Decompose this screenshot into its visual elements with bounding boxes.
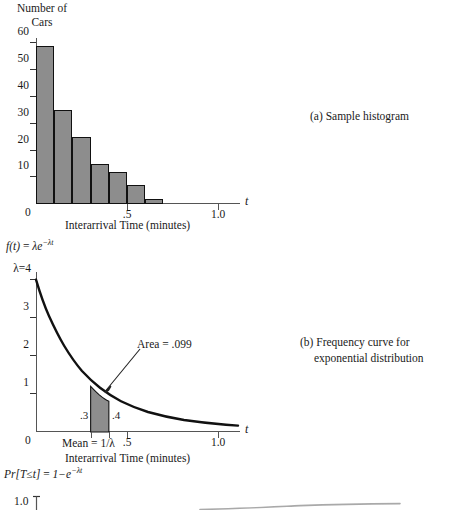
panel-c-axes-svg (0, 466, 456, 510)
panel-b-origin-label: 0 (25, 434, 31, 446)
panel-b-formula-lhs: f(t) (6, 240, 20, 252)
panel-a-ylabel-60: 60 (18, 25, 30, 37)
panel-b-formula-rhs-exponent: −λt (42, 238, 53, 247)
panel-b-mean-annotation: Mean = 1/λ (62, 437, 115, 449)
panel-a-origin-label: 0 (25, 206, 31, 218)
panel-a-ylabel-30: 30 (18, 105, 30, 117)
panel-b-x-axis-title: Interarrival Time (minutes) (65, 452, 190, 464)
panel-a-ylabel-50: 50 (18, 52, 30, 64)
panel-c-cdf-curve-fragment (200, 504, 400, 510)
panel-b-pdf-formula: f(t) = λe−λt (6, 239, 54, 252)
panel-b-area-arrow-svg (36, 272, 240, 432)
panel-a-ylabel-40: 40 (18, 79, 30, 91)
textbook-figure: Number of Cars 10 20 30 40 50 60 (0, 0, 456, 510)
histogram-bar-5 (109, 172, 127, 204)
panel-a-ytick-60 (30, 42, 36, 43)
histogram-bar-7 (145, 199, 163, 204)
histogram-bar-2 (54, 110, 72, 204)
panel-a-caption: (a) Sample histogram (310, 110, 409, 122)
histogram-bar-3 (72, 137, 90, 204)
panel-b-area-arrow-head (105, 386, 111, 393)
panel-b-formula-rhs-base: λe (32, 240, 42, 252)
panel-b-ylabel-2: 2 (23, 338, 29, 350)
panel-b-area-annotation: Area = .099 (137, 338, 192, 350)
panel-b-caption-line2: exponential distribution (300, 351, 424, 367)
panel-b-ylabel-3: 3 (23, 299, 29, 311)
histogram-bar-6 (127, 185, 145, 204)
panel-c-cdf-cropped: Pr[T≤t] = 1−e−λt 1.0 (0, 466, 456, 510)
panel-a-x-axis-title: Interarrival Time (minutes) (65, 219, 190, 231)
panel-b-plot-area: 1 2 3 λ=4 .3 .4 (36, 272, 240, 432)
histogram-bar-1 (36, 46, 54, 204)
panel-b-area-arrow-line (106, 349, 141, 391)
panel-b-caption: (b) Frequency curve for exponential dist… (300, 335, 424, 366)
panel-a-y-axis-title: Number of Cars (4, 1, 80, 30)
panel-b-t-axis-symbol: t (245, 422, 248, 437)
panel-b-caption-line1: (b) Frequency curve for (300, 335, 424, 351)
panel-b-ylabel-lambda4: λ=4 (13, 261, 31, 273)
panel-a-y-axis-title-line2: Cars (4, 15, 80, 29)
panel-a-xlabel-1p0: 1.0 (211, 208, 225, 220)
histogram-bar-4 (91, 164, 109, 204)
panel-b-xlabel-0p4: .4 (112, 410, 120, 422)
panel-a-y-axis-title-line1: Number of (4, 1, 80, 15)
panel-b-xlabel-0p3: .3 (80, 410, 88, 422)
panel-b-xlabel-0p5: .5 (123, 436, 132, 448)
panel-a-ylabel-10: 10 (18, 159, 30, 171)
panel-a-plot-area: 10 20 30 40 50 60 .5 1.0 0 t (36, 38, 240, 204)
panel-a-t-axis-symbol: t (245, 194, 248, 209)
panel-b-ylabel-1: 1 (23, 376, 29, 388)
panel-a-ylabel-20: 20 (18, 132, 30, 144)
panel-b-xlabel-1p0: 1.0 (211, 436, 225, 448)
panel-b-frequency-curve: f(t) = λe−λt 1 2 3 λ=4 (0, 236, 456, 466)
panel-a-sample-histogram: Number of Cars 10 20 30 40 50 60 (0, 0, 456, 235)
panel-b-formula-equals: = (23, 240, 30, 252)
